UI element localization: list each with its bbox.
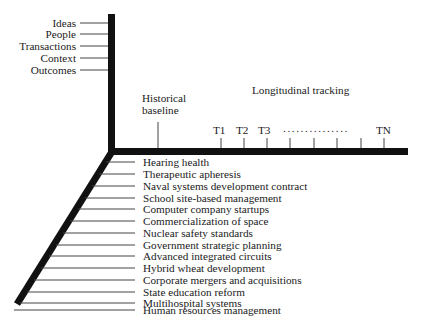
dimension-label: Outcomes xyxy=(31,64,76,77)
time-ticks xyxy=(158,122,384,148)
tick-label-tn: TN xyxy=(376,124,391,137)
case-lines xyxy=(14,162,135,310)
dimensions-axis xyxy=(108,14,115,155)
time-axis xyxy=(108,148,408,155)
tick-label-t3: T3 xyxy=(258,124,270,137)
tick-label-t2: T2 xyxy=(236,124,248,137)
tracking-label: Longitudinal tracking xyxy=(252,84,349,97)
dimension-ticks xyxy=(80,23,108,70)
case-label: Human resources management xyxy=(143,304,281,317)
baseline-label-line2: baseline xyxy=(142,104,179,117)
tick-ellipsis: ............... xyxy=(283,122,349,135)
tick-label-t1: T1 xyxy=(213,124,225,137)
cases-axis xyxy=(17,150,113,304)
